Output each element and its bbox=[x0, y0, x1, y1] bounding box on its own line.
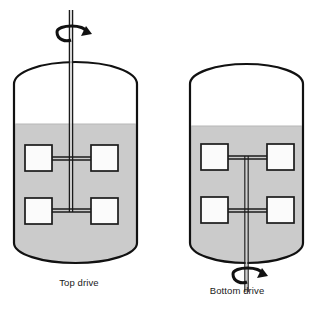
agitated-vessel-diagram bbox=[0, 0, 316, 312]
rotation-arrow-icon bbox=[233, 268, 268, 283]
impeller-blade bbox=[91, 145, 118, 171]
rotation-arrow-icon bbox=[57, 26, 92, 41]
drive-shaft bbox=[245, 156, 248, 292]
caption-bottom-drive: Bottom drive bbox=[158, 285, 316, 296]
impeller-blade bbox=[25, 198, 52, 224]
impeller-blade bbox=[201, 197, 228, 223]
caption-top-drive: Top drive bbox=[0, 277, 158, 288]
tank-top-drive bbox=[10, 10, 142, 269]
impeller-blade bbox=[91, 198, 118, 224]
impeller-blade bbox=[267, 144, 294, 170]
tank-bottom-drive bbox=[186, 64, 308, 292]
impeller-blade bbox=[25, 145, 52, 171]
impeller-blade bbox=[201, 144, 228, 170]
impeller-blade bbox=[267, 197, 294, 223]
